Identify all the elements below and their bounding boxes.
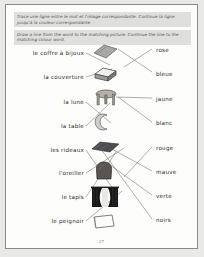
french-word-6[interactable]: le tapis xyxy=(62,194,84,200)
french-word-5[interactable]: l'oreiller xyxy=(59,170,84,176)
french-word-4[interactable]: les rideaux xyxy=(50,147,84,153)
words-layer: le coffre à bijouxla couverturela lunela… xyxy=(6,5,197,248)
page-number: 27 xyxy=(6,239,197,244)
colour-word-5[interactable]: mauve xyxy=(156,169,176,175)
worksheet-page: Trace une ligne entre le mot et l'image … xyxy=(5,4,198,249)
colour-word-4[interactable]: rouge xyxy=(156,145,173,151)
colour-word-1[interactable]: bleue xyxy=(156,71,173,77)
french-word-1[interactable]: la couverture xyxy=(44,74,84,80)
colour-word-7[interactable]: noirs xyxy=(156,217,171,223)
french-word-0[interactable]: le coffre à bijoux xyxy=(33,50,84,56)
french-word-7[interactable]: le peignoir xyxy=(52,218,84,224)
colour-word-3[interactable]: blanc xyxy=(156,120,172,126)
colour-word-0[interactable]: rose xyxy=(156,47,169,53)
french-word-3[interactable]: la table xyxy=(61,123,84,129)
colour-word-2[interactable]: jaune xyxy=(156,96,173,102)
colour-word-6[interactable]: verte xyxy=(156,193,172,199)
french-word-2[interactable]: la lune xyxy=(63,99,84,105)
